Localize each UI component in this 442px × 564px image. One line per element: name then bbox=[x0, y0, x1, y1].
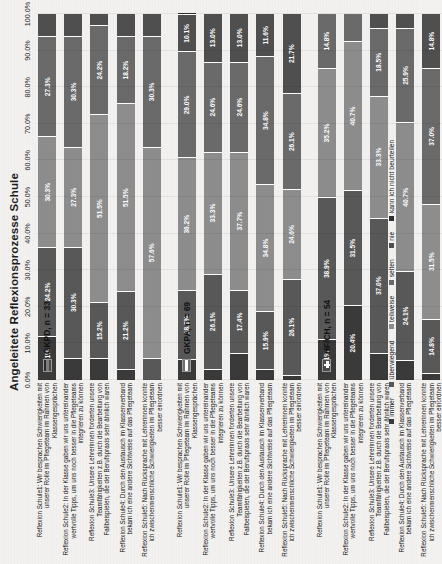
plot-area: 0.0%10.0%20.0%30.0%40.0%50.0%60.0%70.0%8… bbox=[23, 14, 383, 380]
bar-segment: 33.3% bbox=[370, 96, 388, 218]
bar-segment: 30.3% bbox=[64, 36, 82, 147]
bar-segment: 51.5% bbox=[90, 114, 108, 302]
bar-segment: 24.2% bbox=[90, 25, 108, 114]
bar-segment bbox=[117, 14, 135, 36]
x-axis-tick: 10.0% bbox=[23, 333, 32, 353]
bar-segment bbox=[64, 14, 82, 36]
bar-row-label: Reflexion Schule1: Wir besprachen Schwie… bbox=[36, 383, 58, 557]
x-axis-tick: 40.0% bbox=[23, 223, 32, 243]
gridline bbox=[36, 86, 442, 87]
bar-segment: 14.8% bbox=[422, 14, 440, 68]
bar-row: Reflexion Schule2: In der Klasse gaben w… bbox=[62, 14, 84, 380]
bar-row-label: Reflexion Schule5: Nach Rücksprache mit … bbox=[141, 383, 163, 557]
bar-segment: 24.6% bbox=[283, 189, 301, 279]
ch-flag-icon bbox=[322, 359, 331, 372]
stacked-bar: 26.1%24.6%26.1%21.7% bbox=[283, 14, 301, 380]
bar-row-label: Reflexion Schule3: Unsere Lehrerinnen fo… bbox=[228, 383, 250, 557]
bar-segment: 30.3% bbox=[143, 36, 161, 147]
bar-segment: 34.8% bbox=[256, 184, 274, 311]
x-axis-tick: 20.0% bbox=[23, 297, 32, 317]
bar-segment bbox=[230, 353, 248, 380]
bar-segment: 40.7% bbox=[344, 41, 362, 190]
group-label: GKPD, n = 33 bbox=[42, 301, 52, 354]
bar-segment: 26.1% bbox=[204, 274, 222, 370]
bar-segment: 15.9% bbox=[256, 311, 274, 369]
stacked-bar: 20.4%31.5%40.7% bbox=[344, 14, 362, 380]
x-axis: 0.0%10.0%20.0%30.0%40.0%50.0%60.0%70.0%8… bbox=[23, 14, 36, 380]
stacked-bar: 21.2%51.5%18.2% bbox=[117, 14, 135, 380]
bar-segment: 37.0% bbox=[422, 68, 440, 203]
bar-segment bbox=[90, 358, 108, 380]
bar-segment: 21.7% bbox=[283, 14, 301, 93]
bar-row-label: Reflexion Schule4: Durch den Austausch i… bbox=[118, 383, 133, 557]
bar-segment bbox=[344, 14, 362, 41]
group-label: HF/CH, n = 54 bbox=[322, 300, 332, 354]
gridline bbox=[36, 379, 442, 380]
bar-segment: 25.9% bbox=[396, 28, 414, 123]
stacked-bar: 26.1%33.3%24.6%13.0% bbox=[204, 14, 222, 380]
bar-row-label: Reflexion Schule3: Unsere Lehrerinnen fo… bbox=[368, 383, 390, 557]
gridline bbox=[36, 196, 442, 197]
bar-row: Reflexion Schule5: Nach Rücksprache mit … bbox=[141, 14, 163, 380]
x-axis-tick: 80.0% bbox=[23, 77, 32, 97]
bar-segment: 13.0% bbox=[230, 14, 248, 62]
bar-segment bbox=[38, 14, 56, 36]
bar-segment bbox=[370, 14, 388, 28]
bar-segment: 26.1% bbox=[283, 93, 301, 189]
bar-segment: 34.8% bbox=[256, 56, 274, 183]
bar-row-label: Reflexion Schule5: Nach Rücksprache mit … bbox=[280, 383, 302, 557]
bar-segment bbox=[396, 360, 414, 380]
bar-segment: 35.2% bbox=[318, 68, 336, 197]
x-axis-tick: 90.0% bbox=[23, 40, 32, 60]
stacked-bar: 30.3%27.3%30.3% bbox=[64, 14, 82, 380]
gridline bbox=[36, 13, 442, 14]
stacked-bar: 17.4%37.7%24.6%13.0% bbox=[230, 14, 248, 380]
bar-segment bbox=[143, 14, 161, 36]
group-label: GKPA, n = 69 bbox=[182, 302, 192, 354]
bar-row: Reflexion Schule1: Wir besprachen Schwie… bbox=[316, 14, 338, 380]
x-axis-tick: 50.0% bbox=[23, 187, 32, 207]
gridline bbox=[36, 342, 442, 343]
bar-segment: 31.5% bbox=[344, 190, 362, 305]
bar-segment bbox=[90, 14, 108, 25]
bar-segment bbox=[64, 358, 82, 380]
bar-segment: 30.3% bbox=[64, 247, 82, 358]
bar-row: Reflexion Schule2: In der Klasse gaben w… bbox=[202, 14, 224, 380]
bar-segment: 30.3% bbox=[38, 136, 56, 247]
bar-segment: 21.2% bbox=[117, 291, 135, 369]
bar-segment bbox=[370, 353, 388, 380]
bar-segment: 31.5% bbox=[422, 204, 440, 319]
bar-segment: 18.2% bbox=[117, 36, 135, 103]
bar-segment: 29.0% bbox=[178, 51, 196, 157]
x-axis-tick: 70.0% bbox=[23, 114, 32, 134]
stacked-bar: 37.0%33.3%18.5% bbox=[370, 14, 388, 380]
bar-segment bbox=[143, 358, 161, 380]
x-axis-tick: 100.0% bbox=[23, 2, 32, 26]
bar-row: Reflexion Schule4: Durch den Austausch i… bbox=[394, 14, 416, 380]
bar-row: Reflexion Schule4: Durch den Austausch i… bbox=[254, 14, 276, 380]
bar-row-label: Reflexion Schule4: Durch den Austausch i… bbox=[398, 383, 413, 557]
bar-segment: 24.6% bbox=[230, 62, 248, 152]
stacked-bar: 15.2%51.5%24.2% bbox=[90, 14, 108, 380]
stacked-bar: 57.6%30.3% bbox=[143, 14, 161, 380]
x-axis-tick: 60.0% bbox=[23, 150, 32, 170]
bar-segment: 13.0% bbox=[204, 14, 222, 62]
bar-segment: 51.5% bbox=[117, 103, 135, 291]
bar-row: Reflexion Schule3: Unsere Lehrerinnen fo… bbox=[88, 14, 110, 380]
bar-segment: 10.1% bbox=[178, 14, 196, 51]
x-axis-tick: 0.0% bbox=[23, 372, 32, 388]
bar-row-label: Reflexion Schule1: Wir besprachen Schwie… bbox=[315, 383, 337, 557]
bar-row-label: Reflexion Schule4: Durch den Austausch i… bbox=[258, 383, 273, 557]
bar-segment: 15.2% bbox=[90, 302, 108, 358]
x-axis-tick: 30.0% bbox=[23, 260, 32, 280]
bar-row-label: Reflexion Schule3: Unsere Lehrerinnen fo… bbox=[88, 383, 110, 557]
bar-segment: 26.1% bbox=[283, 279, 301, 375]
at-flag-icon bbox=[182, 359, 191, 372]
stacked-bar: 24.1%40.7%25.9% bbox=[396, 14, 414, 380]
bar-segment: 37.0% bbox=[370, 218, 388, 353]
stacked-bar: 15.9%34.8%34.8%11.6% bbox=[256, 14, 274, 380]
bar-row: Reflexion Schule5: Nach Rücksprache mit … bbox=[420, 14, 442, 380]
bar-rows: Reflexion Schule1: Wir besprachen Schwie… bbox=[36, 14, 442, 380]
